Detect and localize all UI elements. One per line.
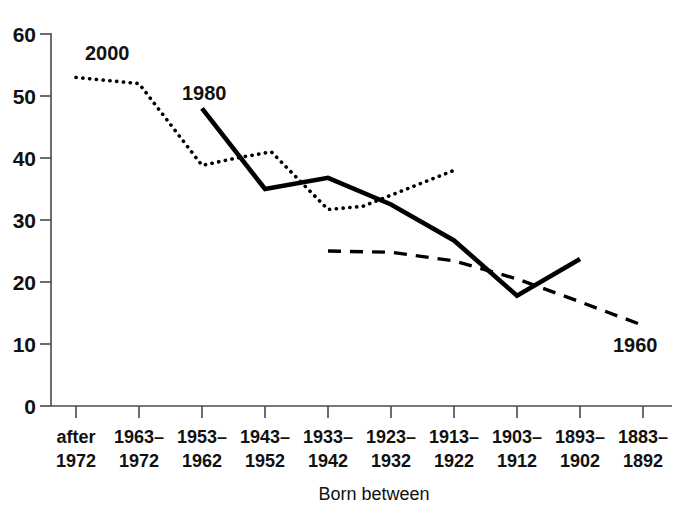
- series-group: [76, 77, 643, 325]
- x-tick-label-0-line2: 1972: [56, 451, 96, 471]
- y-tick-label-50: 50: [13, 85, 36, 108]
- x-tick-label-7-line1: 1903–: [492, 427, 542, 447]
- x-tick-label-2-line2: 1962: [182, 451, 222, 471]
- y-tick-label-60: 60: [13, 23, 36, 46]
- series-labels: 2000 1980 1960: [85, 42, 658, 356]
- x-tick-label-9-line1: 1883–: [618, 427, 668, 447]
- x-tick-label-0-line1: after: [56, 427, 95, 447]
- x-tick-label-4-line1: 1933–: [303, 427, 353, 447]
- series-label-1960: 1960: [613, 334, 658, 356]
- series-label-2000: 2000: [85, 42, 130, 64]
- x-tick-label-6-line1: 1913–: [429, 427, 479, 447]
- x-tick-label-3-line1: 1943–: [240, 427, 290, 447]
- chart-figure: 60 50 40 30 20 10 0 after 1972 1963–: [0, 0, 696, 513]
- y-tick-label-40: 40: [13, 147, 36, 170]
- y-tick-label-0: 0: [24, 395, 36, 418]
- x-tick-label-8-line2: 1902: [560, 451, 600, 471]
- x-axis: [51, 406, 672, 418]
- x-tick-label-2-line1: 1953–: [177, 427, 227, 447]
- x-tick-label-1-line2: 1972: [119, 451, 159, 471]
- x-tick-label-7-line2: 1912: [497, 451, 537, 471]
- y-tick-label-30: 30: [13, 209, 36, 232]
- x-axis-title: Born between: [318, 484, 429, 504]
- x-tick-label-4-line2: 1942: [308, 451, 348, 471]
- x-tick-label-9-line2: 1892: [623, 451, 663, 471]
- x-tick-label-5-line1: 1923–: [366, 427, 416, 447]
- series-line-1960: [328, 251, 643, 325]
- x-tick-label-8-line1: 1893–: [555, 427, 605, 447]
- x-tick-labels: after 1972 1963– 1972 1953– 1962 1943– 1…: [56, 427, 668, 471]
- x-tick-label-1-line1: 1963–: [114, 427, 164, 447]
- y-tick-label-20: 20: [13, 271, 36, 294]
- x-tick-label-6-line2: 1922: [434, 451, 474, 471]
- cropped-title-remnant: [0, 0, 696, 10]
- series-label-1980: 1980: [182, 82, 227, 104]
- x-tick-label-5-line2: 1932: [371, 451, 411, 471]
- x-tick-label-3-line2: 1952: [245, 451, 285, 471]
- y-axis: 60 50 40 30 20 10 0: [13, 23, 51, 418]
- y-tick-label-10: 10: [13, 333, 36, 356]
- line-chart-canvas: 60 50 40 30 20 10 0 after 1972 1963–: [0, 0, 696, 513]
- series-line-1980: [202, 108, 580, 295]
